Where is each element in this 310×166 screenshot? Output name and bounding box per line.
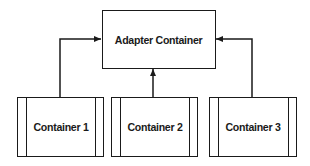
container-3-box: Container 3: [209, 97, 297, 157]
container-2-box: Container 2: [111, 97, 198, 157]
container-1-right-rail: [95, 98, 96, 156]
container-1-left-rail: [26, 98, 27, 156]
container-2-right-rail: [189, 98, 190, 156]
adapter-container-label: Adapter Container: [115, 34, 203, 46]
container-2-label: Container 2: [127, 121, 182, 133]
adapter-container-box: Adapter Container: [102, 10, 216, 69]
container-3-label: Container 3: [225, 121, 280, 133]
container-1-label: Container 1: [33, 121, 88, 133]
edge-container-1-to-adapter: [60, 39, 101, 97]
container-1-box: Container 1: [17, 97, 104, 157]
adapter-diagram: Adapter Container Container 1 Container …: [0, 0, 310, 166]
edge-container-3-to-adapter: [216, 39, 252, 97]
container-3-right-rail: [288, 98, 289, 156]
container-3-left-rail: [218, 98, 219, 156]
container-2-left-rail: [120, 98, 121, 156]
